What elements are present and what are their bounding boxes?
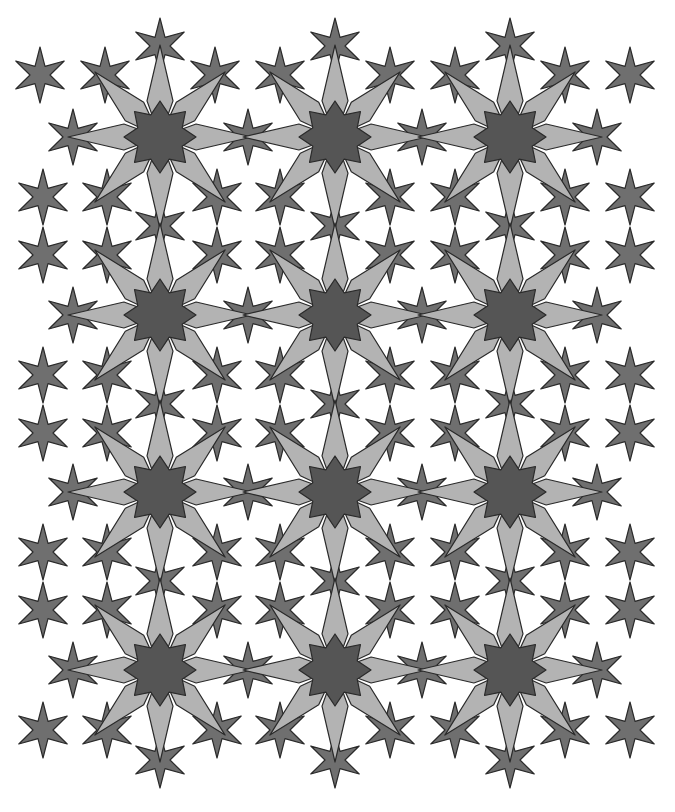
eight-star-core — [299, 456, 371, 528]
six-point-star — [606, 47, 654, 103]
six-point-star — [606, 169, 654, 225]
six-point-star — [19, 347, 67, 403]
six-point-star — [606, 347, 654, 403]
eight-star-core — [474, 456, 546, 528]
six-point-star — [19, 582, 67, 638]
eight-star-core — [124, 101, 196, 173]
six-point-star — [606, 702, 654, 758]
eight-star-core — [124, 634, 196, 706]
eight-star-core — [124, 279, 196, 351]
six-point-star — [606, 524, 654, 580]
star-tessellation-figure — [0, 0, 675, 812]
eight-star-core — [474, 634, 546, 706]
six-point-star — [19, 227, 67, 283]
six-point-star — [19, 169, 67, 225]
six-point-star — [606, 227, 654, 283]
eight-pointed-stars — [68, 45, 602, 762]
eight-star-core — [474, 279, 546, 351]
tessellation-canvas — [0, 0, 675, 812]
eight-star-core — [299, 634, 371, 706]
six-point-star — [606, 582, 654, 638]
six-point-star — [606, 405, 654, 461]
six-point-star — [16, 47, 64, 103]
eight-star-core — [299, 279, 371, 351]
six-point-star — [19, 702, 67, 758]
eight-star-core — [124, 456, 196, 528]
eight-star-core — [474, 101, 546, 173]
six-point-star — [19, 405, 67, 461]
six-point-star — [19, 524, 67, 580]
eight-star-core — [299, 101, 371, 173]
